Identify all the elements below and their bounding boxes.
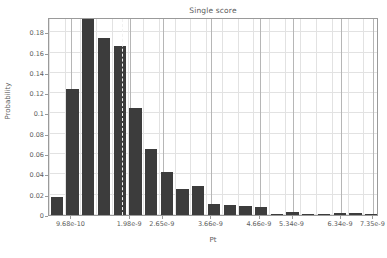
- bar: [129, 108, 141, 215]
- bar: [66, 89, 78, 215]
- x-tick-label: 3.66e-9: [198, 220, 223, 228]
- bar: [114, 46, 126, 215]
- y-tick-mark: [45, 155, 48, 156]
- y-tick-label: 0.16: [8, 50, 44, 58]
- gridline-horizontal: [49, 31, 377, 32]
- y-tick-label: 0.1: [8, 110, 44, 118]
- y-tick-mark: [45, 196, 48, 197]
- bar: [302, 214, 314, 215]
- gridline-vertical: [316, 19, 317, 215]
- gridline-vertical: [348, 19, 349, 215]
- bar: [318, 214, 330, 215]
- y-tick-label: 0.18: [8, 29, 44, 37]
- x-tick-mark: [210, 216, 211, 219]
- y-tick-label: 0.08: [8, 131, 44, 139]
- gridline-vertical-major: [260, 19, 261, 215]
- x-tick-label: 6.34e-9: [328, 220, 353, 228]
- bar: [239, 206, 251, 215]
- y-tick-label: 0.12: [8, 90, 44, 98]
- y-tick-mark: [45, 175, 48, 176]
- bar: [98, 38, 110, 215]
- bar: [161, 172, 173, 215]
- x-tick-label: 7.35e-9: [360, 220, 385, 228]
- gridline-vertical: [363, 19, 364, 215]
- bar: [349, 213, 361, 215]
- chart-figure: Single score Probability Pt 00.020.040.0…: [0, 0, 387, 258]
- y-tick-label: 0.02: [8, 192, 44, 200]
- y-tick-mark: [45, 135, 48, 136]
- gridline-vertical-major: [293, 19, 294, 215]
- x-tick-label: 9.68e-10: [56, 220, 85, 228]
- bar: [82, 18, 94, 215]
- x-tick-label: 5.34e-9: [279, 220, 304, 228]
- y-tick-label: 0.14: [8, 70, 44, 78]
- gridline-vertical: [238, 19, 239, 215]
- x-tick-mark: [340, 216, 341, 219]
- bar: [334, 213, 346, 215]
- x-tick-mark: [259, 216, 260, 219]
- x-tick-label: 4.66e-9: [246, 220, 271, 228]
- gridline-vertical: [222, 19, 223, 215]
- gridline-vertical: [332, 19, 333, 215]
- gridline-vertical-major: [341, 19, 342, 215]
- bar: [365, 214, 377, 215]
- y-tick-label: 0.04: [8, 171, 44, 179]
- y-tick-mark: [45, 33, 48, 34]
- y-tick-label: 0: [8, 212, 44, 220]
- y-tick-mark: [45, 74, 48, 75]
- bar: [208, 204, 220, 215]
- gridline-vertical: [175, 19, 176, 215]
- x-tick-mark: [129, 216, 130, 219]
- gridline-vertical: [300, 19, 301, 215]
- x-tick-mark: [162, 216, 163, 219]
- x-axis-label: Pt: [48, 236, 378, 244]
- bar: [51, 197, 63, 215]
- x-tick-mark: [292, 216, 293, 219]
- bar: [286, 212, 298, 215]
- bar: [192, 186, 204, 215]
- y-tick-label: 0.06: [8, 151, 44, 159]
- y-tick-mark: [45, 54, 48, 55]
- median-marker-line: [122, 19, 123, 215]
- gridline-vertical: [253, 19, 254, 215]
- chart-title: Single score: [48, 6, 378, 15]
- gridline-vertical-major: [211, 19, 212, 215]
- bar: [176, 189, 188, 215]
- bar: [145, 149, 157, 215]
- gridline-vertical-major: [373, 19, 374, 215]
- bar: [224, 205, 236, 215]
- gridline-vertical: [206, 19, 207, 215]
- x-tick-mark: [70, 216, 71, 219]
- gridline-vertical: [285, 19, 286, 215]
- gridline-vertical: [269, 19, 270, 215]
- y-tick-mark: [45, 216, 48, 217]
- bar: [255, 207, 267, 215]
- plot-area: [48, 18, 378, 216]
- y-tick-mark: [45, 94, 48, 95]
- bar: [271, 214, 283, 215]
- x-tick-label: 1.98e-9: [117, 220, 142, 228]
- gridline-vertical: [49, 19, 50, 215]
- y-tick-mark: [45, 114, 48, 115]
- x-tick-label: 2.65e-9: [149, 220, 174, 228]
- x-tick-mark: [372, 216, 373, 219]
